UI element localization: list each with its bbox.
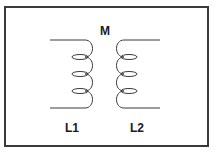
l2-arc-4 xyxy=(117,91,125,108)
l1-arc-4 xyxy=(85,91,93,108)
mutual-inductance-label: M xyxy=(100,25,110,37)
coupled-inductors-drawing xyxy=(0,0,220,156)
l1-arc-1 xyxy=(85,40,93,57)
l1-arc-3 xyxy=(85,74,93,91)
l2-arc-2 xyxy=(117,57,125,74)
l1-arc-2 xyxy=(85,57,93,74)
inductor-l1-coil xyxy=(50,40,93,108)
inductor-l2-label: L2 xyxy=(130,122,144,134)
l2-arc-1 xyxy=(117,40,125,57)
l2-arc-3 xyxy=(117,74,125,91)
inductor-l2-coil xyxy=(117,40,161,108)
inductor-l1-label: L1 xyxy=(65,122,79,134)
